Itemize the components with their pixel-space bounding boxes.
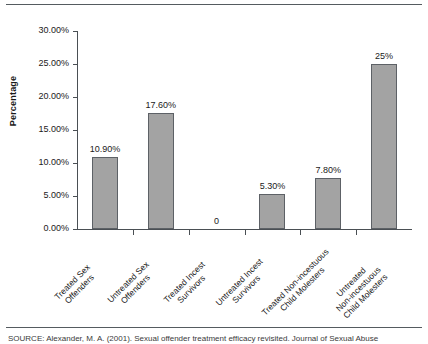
y-axis-tick [73, 229, 77, 230]
bar-value-label: 5.30% [232, 181, 312, 191]
y-axis-line [77, 31, 78, 230]
bottom-divider-rule [6, 327, 422, 328]
y-axis-tick [73, 97, 77, 98]
bar-value-label: 17.60% [121, 100, 201, 110]
x-axis-tick [300, 230, 301, 235]
y-axis-tick-label: 5.00% [21, 191, 69, 200]
y-axis-tick-label: 30.00% [21, 26, 69, 35]
bar-value-label: 7.80% [288, 165, 368, 175]
category-label-line: Offenders [33, 243, 125, 335]
y-axis-tick [73, 130, 77, 131]
bar [148, 113, 174, 229]
x-axis-tick [189, 230, 190, 235]
x-axis-tick [356, 230, 357, 235]
bar [371, 64, 397, 229]
y-axis-tick-label: 20.00% [21, 92, 69, 101]
bar [259, 194, 285, 229]
y-axis-tick [73, 31, 77, 32]
bar-value-label: 10.90% [65, 144, 145, 154]
y-axis-tick-label: 10.00% [21, 158, 69, 167]
bar [315, 178, 341, 229]
y-axis-tick [73, 196, 77, 197]
bar-value-label: 0 [177, 216, 257, 226]
y-axis-title: Percentage [8, 65, 18, 137]
y-axis-tick [73, 64, 77, 65]
top-divider-rule [6, 4, 422, 5]
x-axis-tick [133, 230, 134, 235]
figure: Percentage 0.00%5.00%10.00%15.00%20.00%2… [0, 0, 428, 344]
y-axis-tick [73, 163, 77, 164]
bar-value-label: 25% [344, 51, 424, 61]
bar [92, 157, 118, 229]
x-axis-tick [245, 230, 246, 235]
y-axis-tick-label: 25.00% [21, 59, 69, 68]
y-axis-tick-label: 15.00% [21, 125, 69, 134]
y-axis-tick-label: 0.00% [21, 224, 69, 233]
source-note: SOURCE: Alexander, M. A. (2001). Sexual … [8, 334, 422, 344]
